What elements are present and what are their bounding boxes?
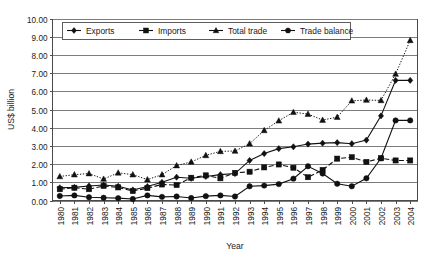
circle-marker bbox=[116, 195, 121, 200]
legend-label: Imports bbox=[158, 26, 186, 36]
square-marker bbox=[57, 187, 62, 192]
square-marker bbox=[174, 182, 179, 187]
triangle-marker bbox=[290, 109, 296, 114]
circle-marker bbox=[408, 118, 413, 123]
x-tick-label: 1990 bbox=[203, 207, 212, 226]
y-tick-label: 8.00 bbox=[32, 52, 48, 61]
y-tick-label: 2.00 bbox=[32, 161, 48, 170]
triangle-marker bbox=[188, 159, 194, 164]
y-tick-label: 7.00 bbox=[32, 70, 48, 79]
chart-legend: ExportsImportsTotal tradeTrade balance bbox=[62, 22, 354, 39]
x-tick-label: 1995 bbox=[276, 207, 285, 226]
diamond-marker bbox=[408, 77, 413, 83]
circle-marker bbox=[305, 164, 310, 169]
x-tick-label: 1980 bbox=[57, 207, 66, 226]
x-tick-label: 1981 bbox=[71, 207, 80, 226]
square-marker bbox=[349, 155, 354, 160]
series-layer bbox=[57, 37, 413, 202]
circle-marker bbox=[101, 195, 106, 200]
square-marker bbox=[130, 188, 135, 193]
circle-marker bbox=[291, 176, 296, 181]
y-axis: 0.001.002.003.004.005.006.007.008.009.00… bbox=[27, 16, 53, 207]
x-tick-label: 1986 bbox=[144, 207, 153, 226]
y-tick-label: 4.00 bbox=[32, 125, 48, 134]
y-tick-label: 0.00 bbox=[32, 198, 48, 207]
square-marker bbox=[232, 170, 237, 175]
series-imports bbox=[57, 155, 413, 194]
square-marker bbox=[291, 165, 296, 170]
circle-marker bbox=[189, 195, 194, 200]
diamond-marker bbox=[349, 141, 354, 147]
triangle-marker bbox=[57, 173, 63, 178]
circle-marker bbox=[276, 181, 281, 186]
square-marker bbox=[305, 175, 310, 180]
x-tick-label: 1988 bbox=[174, 207, 183, 226]
x-tick-label: 1987 bbox=[159, 207, 168, 226]
triangle-marker bbox=[276, 118, 282, 123]
x-tick-label: 1985 bbox=[130, 207, 139, 226]
circle-marker bbox=[145, 193, 150, 198]
x-tick-label: 1983 bbox=[101, 207, 110, 226]
circle-marker bbox=[349, 184, 354, 189]
triangle-marker bbox=[407, 37, 413, 42]
x-tick-label: 2000 bbox=[349, 207, 358, 226]
square-marker bbox=[247, 169, 252, 174]
diamond-marker bbox=[320, 140, 325, 146]
square-marker bbox=[145, 186, 150, 191]
x-tick-label: 1992 bbox=[232, 207, 241, 226]
diamond-marker bbox=[291, 144, 296, 150]
circle-marker bbox=[203, 193, 208, 198]
square-marker bbox=[144, 28, 149, 33]
circle-marker bbox=[393, 118, 398, 123]
square-marker bbox=[393, 158, 398, 163]
circle-marker bbox=[130, 196, 135, 201]
y-tick-label: 3.00 bbox=[32, 143, 48, 152]
circle-marker bbox=[218, 193, 223, 198]
triangle-marker bbox=[71, 172, 77, 177]
y-tick-label: 5.00 bbox=[32, 107, 48, 116]
diamond-marker bbox=[393, 77, 398, 83]
triangle-marker bbox=[86, 170, 92, 175]
circle-marker bbox=[320, 171, 325, 176]
square-marker bbox=[218, 176, 223, 181]
square-marker bbox=[72, 185, 77, 190]
circle-marker bbox=[232, 194, 237, 199]
x-tick-label: 1982 bbox=[86, 207, 95, 226]
diamond-marker bbox=[174, 174, 179, 180]
x-tick-label: 1984 bbox=[115, 207, 124, 226]
circle-marker bbox=[86, 195, 91, 200]
y-tick-label: 10.00 bbox=[27, 16, 48, 25]
x-tick-label: 1996 bbox=[290, 207, 299, 226]
circle-marker bbox=[174, 194, 179, 199]
circle-marker bbox=[72, 193, 77, 198]
square-marker bbox=[262, 165, 267, 170]
x-tick-label: 1999 bbox=[334, 207, 343, 226]
chart-canvas: 0.001.002.003.004.005.006.007.008.009.00… bbox=[0, 0, 433, 260]
square-marker bbox=[116, 185, 121, 190]
y-tick-label: 6.00 bbox=[32, 88, 48, 97]
square-marker bbox=[276, 162, 281, 167]
square-marker bbox=[364, 159, 369, 164]
y-tick-label: 1.00 bbox=[32, 179, 48, 188]
diamond-marker bbox=[262, 150, 267, 156]
x-tick-label: 2004 bbox=[407, 207, 416, 226]
circle-marker bbox=[247, 184, 252, 189]
circle-marker bbox=[335, 181, 340, 186]
circle-marker bbox=[159, 194, 164, 199]
diamond-marker bbox=[335, 140, 340, 146]
triangle-marker bbox=[115, 170, 121, 175]
square-marker bbox=[159, 182, 164, 187]
legend-label: Trade balance bbox=[300, 26, 354, 36]
legend-label: Total trade bbox=[228, 26, 267, 36]
circle-marker bbox=[57, 193, 62, 198]
circle-marker bbox=[378, 156, 383, 161]
x-tick-label: 1993 bbox=[247, 207, 256, 226]
x-axis-title: Year bbox=[226, 241, 244, 251]
x-tick-label: 1991 bbox=[217, 207, 226, 226]
circle-marker bbox=[262, 183, 267, 188]
x-tick-label: 1989 bbox=[188, 207, 197, 226]
square-marker bbox=[101, 183, 106, 188]
triangle-marker bbox=[232, 148, 238, 153]
square-marker bbox=[189, 175, 194, 180]
trade-statistics-chart: 0.001.002.003.004.005.006.007.008.009.00… bbox=[0, 0, 433, 260]
